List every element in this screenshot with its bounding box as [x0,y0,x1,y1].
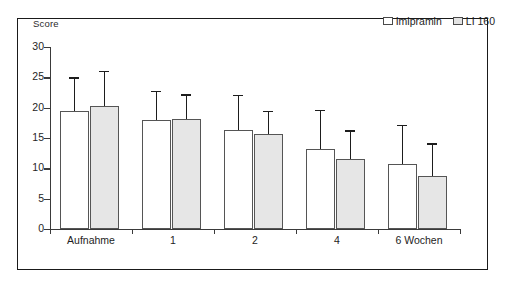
x-axis-group-tick [460,229,461,234]
error-bar-stem-1-2 [268,111,269,135]
y-tick-label-20: 20 [4,101,44,113]
error-bar-cap-0-3 [315,110,325,111]
legend-item-imipramin: Imipramin [383,15,442,27]
bar-li-160-3 [336,159,365,229]
legend-label-li160: LI 160 [466,15,495,27]
white-square-icon [383,17,393,25]
x-axis-group-tick [378,229,379,234]
error-bar-cap-1-0 [99,71,109,72]
legend-label-imipramin: Imipramin [396,15,442,27]
bar-li-160-1 [172,119,201,229]
bar-imipramin-4 [388,164,417,229]
error-bar-cap-0-4 [397,125,407,126]
y-tick-20 [44,108,50,109]
y-tick-15 [44,138,50,139]
y-tick-label-0: 0 [4,222,44,234]
x-axis-label-1: 1 [170,234,176,246]
error-bar-stem-0-4 [402,125,403,164]
figure-bar-chart: Score Imipramin LI 160 051015202530 Aufn… [0,0,507,292]
y-tick-label-15: 15 [4,131,44,143]
y-tick-label-30: 30 [4,40,44,52]
bar-imipramin-0 [60,111,89,229]
y-tick-30 [44,47,50,48]
x-axis-label-0: Aufnahme [67,234,115,246]
error-bar-stem-1-3 [350,130,351,159]
y-tick-5 [44,199,50,200]
x-axis-label-2: 2 [252,234,258,246]
y-tick-label-5: 5 [4,192,44,204]
legend-item-li160: LI 160 [453,15,495,27]
x-axis-label-3: 4 [334,234,340,246]
bar-imipramin-1 [142,120,171,229]
x-axis-group-tick [50,229,51,234]
error-bar-cap-0-1 [151,91,161,92]
y-tick-25 [44,77,50,78]
y-axis-line [50,47,51,229]
bar-li-160-4 [418,176,447,229]
error-bar-stem-1-0 [104,71,105,107]
error-bar-cap-0-2 [233,95,243,96]
error-bar-stem-1-1 [186,94,187,118]
y-tick-label-25: 25 [4,70,44,82]
bar-imipramin-3 [306,149,335,229]
grey-square-icon [453,17,463,25]
error-bar-stem-1-4 [432,143,433,175]
x-axis-group-tick [132,229,133,234]
bar-li-160-2 [254,134,283,229]
error-bar-cap-1-3 [345,130,355,131]
bar-imipramin-2 [224,130,253,229]
error-bar-cap-1-1 [181,94,191,95]
x-axis-group-tick [296,229,297,234]
y-axis-title: Score [33,18,59,29]
chart-legend: Imipramin LI 160 [383,15,495,27]
error-bar-stem-0-3 [320,110,321,149]
x-axis-group-tick [214,229,215,234]
error-bar-stem-0-1 [156,91,157,120]
bar-li-160-0 [90,106,119,229]
error-bar-stem-0-0 [74,77,75,110]
y-tick-label-10: 10 [4,161,44,173]
y-tick-10 [44,168,50,169]
error-bar-stem-0-2 [238,95,239,130]
x-axis-label-4: 6 Wochen [395,234,442,246]
error-bar-cap-1-4 [427,143,437,144]
error-bar-cap-1-2 [263,111,273,112]
error-bar-cap-0-0 [69,77,79,78]
